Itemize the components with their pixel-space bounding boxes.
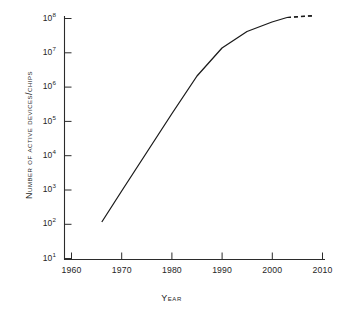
y-axis-ticks [65, 19, 72, 259]
series-historical-line [102, 18, 287, 223]
x-tick-label-1960: 1960 [52, 265, 92, 275]
x-axis-title: Year [0, 293, 343, 303]
y-tick-label-1e8: 108 [24, 13, 56, 23]
x-tick-label-1970: 1970 [102, 265, 142, 275]
x-tick-label-1980: 1980 [152, 265, 192, 275]
x-axis-ticks [72, 253, 323, 260]
x-tick-label-2000: 2000 [252, 265, 292, 275]
x-tick-label-2010: 2010 [303, 265, 343, 275]
x-tick-label-1990: 1990 [202, 265, 242, 275]
y-tick-label-1e1: 101 [24, 253, 56, 263]
y-axis-title: Number of active devices/chips [24, 30, 34, 240]
moores-law-chart: 108 107 106 105 104 103 102 101 1960 197… [0, 0, 343, 316]
